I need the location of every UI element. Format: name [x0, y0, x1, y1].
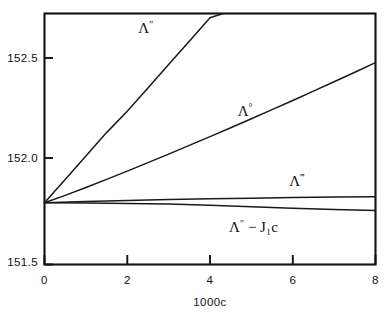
y-tick-label-152-0: 152.0 — [7, 152, 38, 164]
curve-3 — [45, 197, 376, 203]
y-tick-label-152-5: 152.5 — [7, 52, 38, 64]
curve-2 — [45, 63, 376, 203]
curve-label-3: Λ‴ — [289, 172, 305, 189]
x-axis-title: 1000c — [193, 296, 226, 308]
curve-annotation-group: Λ″Λ°Λ‴Λ″ − J₁c — [138, 19, 305, 235]
x-tick-label-6: 6 — [289, 274, 296, 286]
curve-label-1: Λ″ — [138, 19, 153, 36]
curve-group — [45, 14, 376, 211]
plot-frame — [45, 14, 376, 265]
line-chart: 152.5 152.0 151.5 0 2 4 6 8 1000c Λ″Λ°Λ‴… — [0, 0, 391, 319]
curve-4 — [45, 203, 376, 211]
x-tick-label-0: 0 — [41, 274, 48, 286]
figure-container: 152.5 152.0 151.5 0 2 4 6 8 1000c Λ″Λ°Λ‴… — [0, 0, 391, 319]
curve-label-2: Λ° — [238, 102, 253, 119]
x-tick-label-4: 4 — [207, 274, 214, 286]
x-axis-ticks — [45, 255, 376, 265]
x-tick-label-2: 2 — [124, 274, 131, 286]
curve-label-4: Λ″ − J₁c — [229, 218, 278, 235]
curve-1 — [45, 14, 224, 203]
y-tick-label-151-5: 151.5 — [7, 256, 38, 268]
x-tick-label-8: 8 — [372, 274, 379, 286]
y-axis-ticks — [45, 58, 54, 158]
